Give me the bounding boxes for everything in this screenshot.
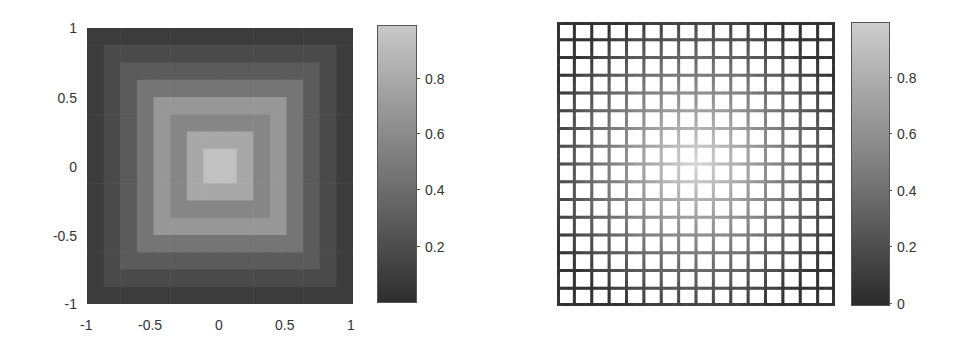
heatmap-cell — [170, 252, 187, 270]
heatmap-cell — [170, 132, 187, 150]
heatmap-cell — [303, 114, 320, 132]
heatmap-cell — [137, 132, 154, 150]
right-mesh-grid — [557, 22, 835, 306]
heatmap-cell — [336, 132, 353, 150]
heatmap-cell — [170, 63, 187, 81]
heatmap-cell — [336, 201, 353, 219]
heatmap-cell — [270, 183, 287, 201]
heatmap-cell — [237, 218, 254, 236]
heatmap-cell — [237, 166, 254, 184]
heatmap-cell — [303, 235, 320, 253]
heatmap-cell — [253, 97, 270, 115]
heatmap-cell — [203, 28, 220, 46]
heatmap-cell — [253, 149, 270, 167]
heatmap-cell — [187, 149, 204, 167]
heatmap-cell — [270, 80, 287, 98]
heatmap-cell — [187, 166, 204, 184]
heatmap-cell — [187, 183, 204, 201]
heatmap-cell — [237, 252, 254, 270]
heatmap-cell — [87, 287, 104, 304]
heatmap-cell — [287, 201, 304, 219]
heatmap-cell — [270, 132, 287, 150]
heatmap-cell — [154, 132, 171, 150]
heatmap-cell — [170, 218, 187, 236]
heatmap-cell — [87, 114, 104, 132]
heatmap-cell — [154, 287, 171, 304]
heatmap-cell — [120, 80, 137, 98]
heatmap-cell — [287, 132, 304, 150]
heatmap-cell — [170, 235, 187, 253]
heatmap-cell — [320, 132, 337, 150]
heatmap-cell — [287, 183, 304, 201]
heatmap-cell — [270, 287, 287, 304]
heatmap-cell — [220, 235, 237, 253]
heatmap-cell — [203, 166, 220, 184]
left-xtick-1: -1 — [80, 318, 92, 332]
heatmap-cell — [220, 114, 237, 132]
heatmap-cell — [303, 270, 320, 288]
heatmap-cell — [253, 183, 270, 201]
heatmap-cell — [87, 28, 104, 46]
heatmap-cell — [320, 252, 337, 270]
heatmap-cell — [87, 218, 104, 236]
left-xtick-4: 0.5 — [275, 318, 294, 332]
heatmap-cell — [320, 97, 337, 115]
right-cbar-tick-0: 0 — [897, 297, 905, 311]
heatmap-cell — [270, 270, 287, 288]
left-ytick-3: 0 — [37, 160, 77, 174]
heatmap-cell — [320, 166, 337, 184]
heatmap-cell — [187, 270, 204, 288]
heatmap-cell — [170, 166, 187, 184]
heatmap-cell — [237, 97, 254, 115]
heatmap-cell — [154, 149, 171, 167]
heatmap-cell — [154, 97, 171, 115]
heatmap-cell — [104, 28, 121, 46]
heatmap-cell — [104, 63, 121, 81]
heatmap-cell — [120, 218, 137, 236]
heatmap-cell — [270, 252, 287, 270]
heatmap-cell — [287, 28, 304, 46]
heatmap-cell — [320, 183, 337, 201]
heatmap-cell — [270, 114, 287, 132]
heatmap-cell — [336, 287, 353, 304]
left-ytick-1: 1 — [37, 21, 77, 35]
heatmap-cell — [137, 166, 154, 184]
heatmap-cell — [270, 63, 287, 81]
heatmap-cell — [320, 149, 337, 167]
left-xtick-2: -0.5 — [138, 318, 162, 332]
heatmap-cell — [287, 45, 304, 63]
heatmap-cell — [137, 201, 154, 219]
heatmap-cell — [303, 252, 320, 270]
heatmap-cell — [303, 97, 320, 115]
heatmap-cell — [220, 252, 237, 270]
heatmap-cell — [187, 80, 204, 98]
heatmap-cell — [253, 28, 270, 46]
heatmap-cell — [137, 252, 154, 270]
heatmap-cell — [170, 80, 187, 98]
heatmap-cell — [287, 114, 304, 132]
right-cbar-tick-08: 0.8 — [897, 71, 916, 85]
left-ytick-2: 0.5 — [37, 91, 77, 105]
heatmap-cell — [203, 97, 220, 115]
heatmap-cell — [220, 149, 237, 167]
heatmap-cell — [154, 235, 171, 253]
left-cbar-tick-02: 0.2 — [425, 240, 444, 254]
left-ytick-5: -1 — [37, 297, 77, 311]
heatmap-cell — [104, 97, 121, 115]
left-heatmap-axes — [87, 28, 353, 304]
heatmap-cell — [203, 80, 220, 98]
heatmap-cell — [237, 287, 254, 304]
heatmap-cell — [303, 28, 320, 46]
heatmap-cell — [237, 45, 254, 63]
heatmap-cell — [336, 270, 353, 288]
heatmap-cell — [237, 270, 254, 288]
heatmap-cell — [303, 166, 320, 184]
heatmap-cell — [87, 201, 104, 219]
heatmap-cell — [237, 201, 254, 219]
right-mesh-axes — [557, 22, 835, 306]
heatmap-cell — [287, 63, 304, 81]
heatmap-cell — [137, 287, 154, 304]
heatmap-cell — [303, 132, 320, 150]
heatmap-cell — [120, 149, 137, 167]
heatmap-cell — [154, 252, 171, 270]
